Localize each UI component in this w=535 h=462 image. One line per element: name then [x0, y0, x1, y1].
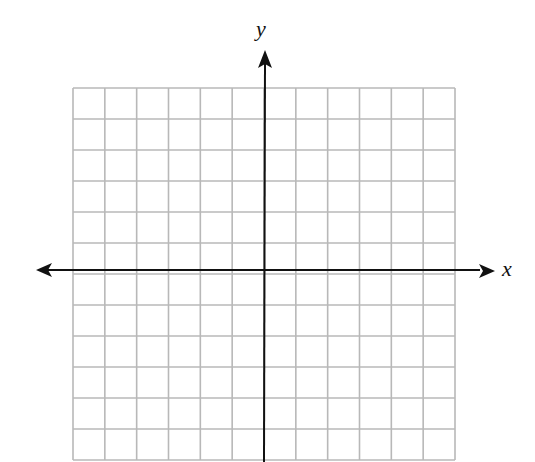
- y-axis-line: [264, 62, 265, 462]
- x-axis-right-arrow-icon: [479, 264, 495, 278]
- y-axis-label: y: [256, 18, 266, 40]
- x-axis-label: x: [502, 258, 512, 280]
- coordinate-plane: [0, 0, 535, 462]
